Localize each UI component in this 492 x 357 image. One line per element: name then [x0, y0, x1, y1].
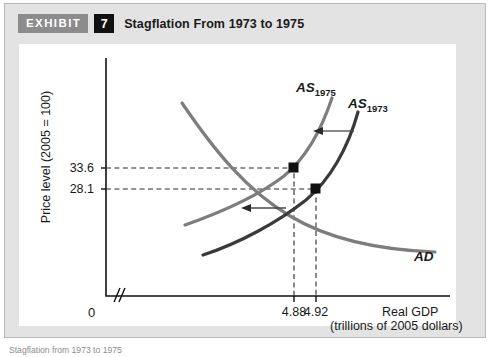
curve-label-as-1973-base: AS	[348, 96, 367, 111]
exhibit-label-badge: EXHIBIT	[18, 14, 88, 33]
y-tick-label-28-1: 28.1	[52, 182, 94, 196]
curve-label-as-1975-base: AS	[296, 80, 315, 95]
y-tick-label-33-6: 33.6	[52, 161, 94, 175]
exhibit-title: Stagflation From 1973 to 1975	[124, 17, 304, 31]
origin-label: 0	[88, 305, 95, 320]
curve-label-as-1973: AS1973	[348, 96, 388, 114]
y-axis-title: Price level (2005 = 100)	[39, 77, 53, 237]
x-axis-subtitle: (trillions of 2005 dollars)	[330, 319, 463, 333]
curve-label-as-1975-sub: 1975	[315, 87, 336, 98]
exhibit-header: EXHIBIT 7 Stagflation From 1973 to 1975	[18, 14, 304, 33]
exhibit-figure: EXHIBIT 7 Stagflation From 1973 to 1975	[0, 0, 492, 357]
curve-label-ad: AD	[414, 249, 434, 264]
figure-caption: Stagflation from 1973 to 1975	[9, 345, 483, 356]
x-axis-title: Real GDP	[382, 305, 438, 319]
exhibit-number-badge: 7	[94, 14, 114, 33]
curve-label-as-1975: AS1975	[296, 80, 336, 98]
curve-label-as-1973-sub: 1973	[367, 103, 388, 114]
x-tick-label-4-92: 4.92	[294, 305, 338, 319]
